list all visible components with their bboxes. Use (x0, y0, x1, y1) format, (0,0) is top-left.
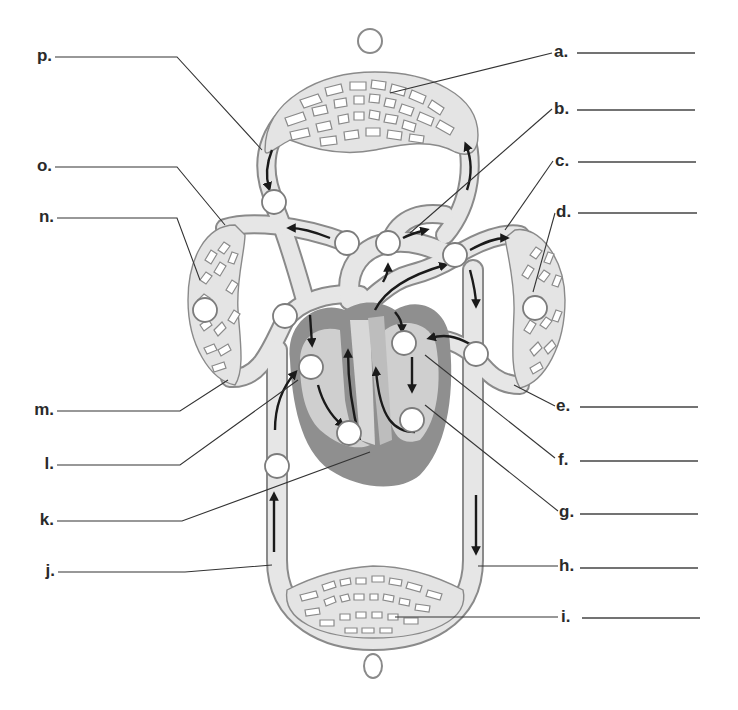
answer-lines (577, 53, 700, 618)
label-j: j. (25, 562, 55, 579)
blank-circle-7[interactable] (273, 304, 297, 328)
label-l: l. (24, 455, 54, 472)
blank-circle-4[interactable] (443, 243, 467, 267)
blank-circle-1[interactable] (262, 190, 286, 214)
legend-circle-bottom[interactable] (364, 654, 382, 678)
label-e: e. (556, 397, 570, 414)
heart (290, 303, 452, 487)
label-p: p. (22, 47, 52, 64)
legend-circle-top[interactable] (358, 29, 382, 53)
capillary-bed-top (265, 72, 478, 154)
blank-circle-3[interactable] (376, 231, 400, 255)
label-c: c. (555, 152, 569, 169)
label-o: o. (22, 157, 52, 174)
blank-circle-11[interactable] (337, 421, 361, 445)
label-k: k. (24, 511, 54, 528)
label-a: a. (554, 43, 568, 60)
circulatory-system-diagram (0, 0, 738, 710)
blank-circle-9[interactable] (392, 331, 416, 355)
capillary-bed-bottom (287, 566, 464, 638)
blank-circle-10[interactable] (464, 342, 488, 366)
label-i: i. (561, 608, 570, 625)
label-h: h. (559, 557, 574, 574)
blank-circle-5[interactable] (193, 298, 217, 322)
blank-circle-6[interactable] (523, 296, 547, 320)
blank-circle-8[interactable] (299, 355, 323, 379)
blank-circle-2[interactable] (335, 231, 359, 255)
label-g: g. (559, 503, 574, 520)
label-b: b. (554, 100, 569, 117)
label-n: n. (24, 208, 54, 225)
label-f: f. (558, 451, 568, 468)
blank-circle-13[interactable] (265, 454, 289, 478)
label-m: m. (24, 401, 54, 418)
label-d: d. (556, 203, 571, 220)
blank-circle-12[interactable] (400, 408, 424, 432)
